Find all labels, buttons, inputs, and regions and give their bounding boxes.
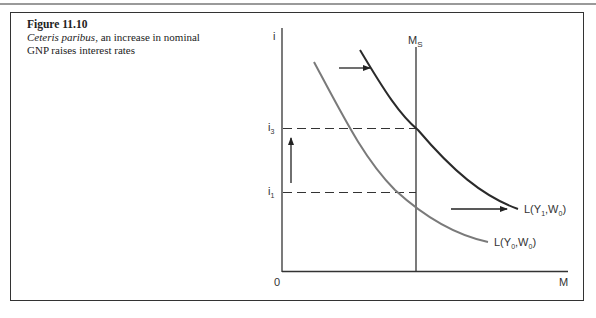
i1-label: i1: [268, 185, 274, 199]
money-supply-label: MS: [408, 34, 423, 49]
curve-label-L-Y0-W0: L(Y0,W0): [494, 236, 536, 250]
curve-L-Y0-W0: [314, 62, 488, 242]
money-market-chart: i M 0 MS i3 i1 L(Y1,W0) L(Y0,W0): [0, 0, 596, 318]
curve-label-L-Y1-W0: L(Y1,W0): [524, 203, 566, 217]
i3-label: i3: [268, 121, 274, 135]
origin-label: 0: [274, 276, 280, 288]
y-axis-label: i: [273, 30, 275, 42]
x-axis-label: M: [559, 276, 568, 288]
curve-L-Y1-W0: [360, 50, 518, 209]
